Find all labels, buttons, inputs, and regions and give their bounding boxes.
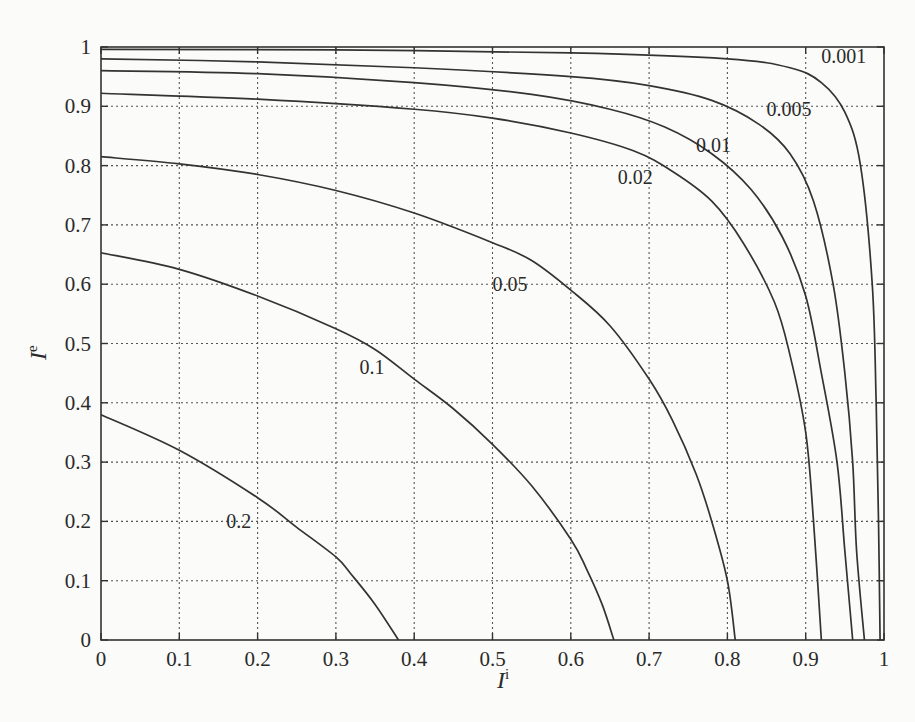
x-tick-label: 0.9 — [793, 647, 819, 671]
x-axis-title: Ii — [496, 666, 509, 693]
x-tick-label: 0.6 — [558, 647, 584, 671]
curve-0.01 — [101, 71, 853, 640]
y-axis-title: Ie — [24, 345, 51, 361]
x-tick-label: 0.7 — [636, 647, 662, 671]
curve-label-0.01: 0.01 — [696, 134, 731, 156]
curve-labels: 0.0010.0050.010.020.050.10.2 — [226, 45, 866, 533]
y-tick-label: 0.6 — [65, 272, 91, 296]
curves — [101, 49, 880, 640]
x-tick-label: 0 — [96, 647, 107, 671]
curve-label-0.05: 0.05 — [493, 273, 528, 295]
curve-label-0.02: 0.02 — [618, 166, 653, 188]
x-tick-label: 0.4 — [401, 647, 428, 671]
y-tick-label: 0.8 — [65, 154, 91, 178]
curve-label-0.2: 0.2 — [226, 510, 251, 532]
curve-label-0.1: 0.1 — [359, 356, 384, 378]
x-tick-label: 0.3 — [323, 647, 349, 671]
curve-label-0.005: 0.005 — [767, 98, 812, 120]
x-tick-label: 0.1 — [166, 647, 192, 671]
x-tick-label: 1 — [879, 647, 890, 671]
curve-0.02 — [101, 93, 821, 640]
y-tick-label: 0.4 — [65, 391, 92, 415]
y-tick-label: 0.3 — [65, 450, 91, 474]
y-tick-label: 0.2 — [65, 509, 91, 533]
y-tick-label: 0.1 — [65, 569, 91, 593]
y-tick-label: 0 — [81, 628, 92, 652]
chart-svg: 00.10.20.30.40.50.60.70.80.9100.10.20.30… — [0, 0, 915, 722]
curve-0.001 — [101, 49, 880, 640]
grid-lines — [101, 47, 884, 640]
axis-ticks: 00.10.20.30.40.50.60.70.80.9100.10.20.30… — [65, 35, 890, 671]
curve-label-0.001: 0.001 — [821, 45, 866, 67]
x-tick-label: 0.8 — [714, 647, 740, 671]
y-tick-label: 0.9 — [65, 94, 91, 118]
y-tick-label: 1 — [81, 35, 92, 59]
y-tick-label: 0.5 — [65, 332, 91, 356]
curve-0.005 — [101, 59, 864, 640]
curve-0.05 — [101, 157, 735, 640]
y-tick-label: 0.7 — [65, 213, 91, 237]
x-tick-label: 0.2 — [244, 647, 270, 671]
